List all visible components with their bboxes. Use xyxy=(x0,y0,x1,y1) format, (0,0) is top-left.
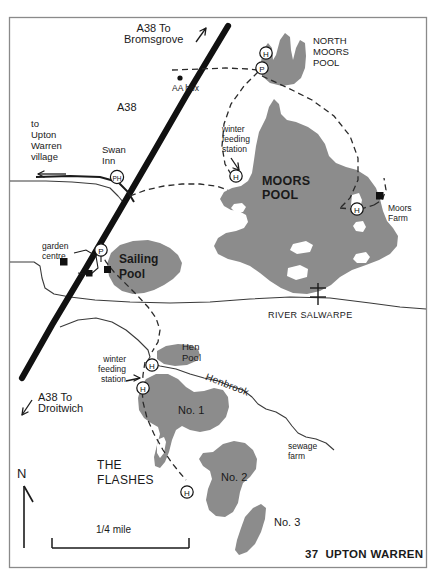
map-container: H H H H H H xyxy=(0,0,436,585)
label-a38-road: A38 xyxy=(117,102,137,113)
svg-text:H: H xyxy=(149,362,155,371)
label-flash-no-3: No. 3 xyxy=(274,516,300,529)
label-hen-pool: Hen Pool xyxy=(182,341,201,363)
building-east-of-road xyxy=(104,266,111,273)
label-scale: 1/4 mile xyxy=(96,524,131,535)
label-winter-feeding-station-south: winter feeding station xyxy=(78,354,126,384)
moors-farm-building xyxy=(376,192,384,200)
svg-text:H: H xyxy=(263,50,269,59)
label-sailing-pool: Sailing Pool xyxy=(119,252,158,282)
label-sewage-farm: sewage farm xyxy=(288,441,317,461)
label-north: N xyxy=(17,468,26,479)
label-moors-pool: MOORS POOL xyxy=(262,174,310,202)
label-to-upton-warren-village: to Upton Warren village xyxy=(31,118,62,162)
label-swan-inn: Swan Inn xyxy=(102,144,126,166)
hide-flash-1-marker[interactable]: H xyxy=(137,382,149,394)
hide-hen-pool-marker[interactable]: H xyxy=(146,359,158,371)
label-a38-to-bromsgrove: A38 To Bromsgrove xyxy=(124,23,183,45)
public-house-marker[interactable]: PH xyxy=(110,170,123,183)
label-north-moors-pool: NORTH MOORS POOL xyxy=(313,35,349,68)
svg-text:H: H xyxy=(354,206,360,215)
svg-text:PH: PH xyxy=(112,175,121,182)
label-aa-box: AA box xyxy=(172,83,199,93)
label-moors-farm: Moors Farm xyxy=(388,203,412,223)
map-title: 37 UPTON WARREN xyxy=(305,549,423,560)
hide-north-moors-marker[interactable]: H xyxy=(260,47,272,59)
parking-north-marker[interactable]: P xyxy=(256,62,268,74)
building-west-of-road xyxy=(86,270,93,277)
svg-text:H: H xyxy=(140,385,146,394)
map-graphic: H H H H H H xyxy=(0,0,436,585)
svg-text:P: P xyxy=(98,247,103,256)
svg-text:H: H xyxy=(184,489,190,498)
label-a38-to-droitwich: A38 To Droitwich xyxy=(38,392,83,414)
hide-flash-2-marker[interactable]: H xyxy=(181,486,193,498)
svg-text:P: P xyxy=(259,65,264,74)
aa-box-dot xyxy=(177,75,182,80)
label-flash-no-1: No. 1 xyxy=(178,404,204,417)
hide-moors-east-marker[interactable]: H xyxy=(351,203,363,215)
label-flash-no-2: No. 2 xyxy=(221,471,247,484)
label-the-flashes: THE FLASHES xyxy=(97,458,154,488)
label-river-salwarpe: RIVER SALWARPE xyxy=(268,310,353,321)
svg-text:H: H xyxy=(233,173,239,182)
label-garden-centre: garden centre xyxy=(42,241,68,261)
hide-moors-west-marker[interactable]: H xyxy=(230,170,242,182)
label-winter-feeding-station-north: winter feeding station xyxy=(222,124,250,154)
